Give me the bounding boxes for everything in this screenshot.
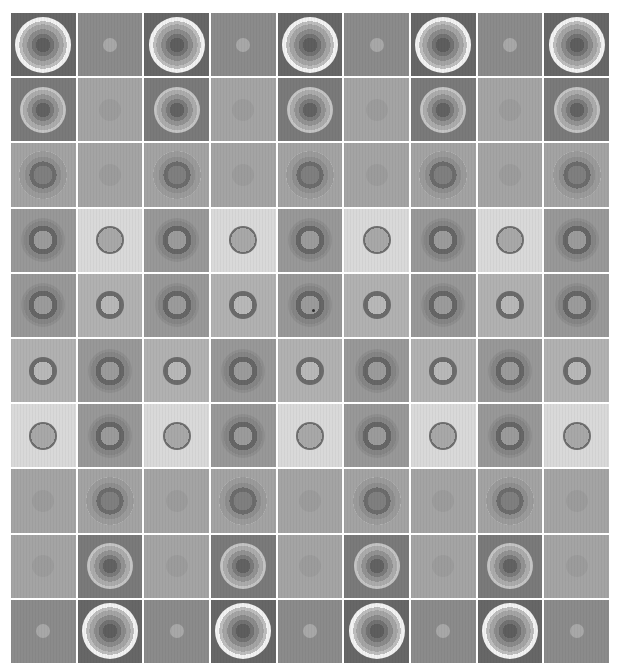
- grid-cell-soft-halo-ring: [344, 404, 409, 467]
- grid-cell-faint-striped-circle: [144, 469, 209, 532]
- grid-cell-soft-halo-ring: [478, 404, 543, 467]
- grid-cell-white-ring: [411, 78, 476, 141]
- concentric-circle-icon: [303, 624, 317, 638]
- concentric-circle-icon: [19, 151, 67, 199]
- concentric-circle-icon: [488, 414, 532, 458]
- concentric-circle-icon: [99, 99, 121, 121]
- grid-cell-white-ring: [278, 78, 343, 141]
- grid-cell-small-dot: [411, 600, 476, 663]
- concentric-circle-icon: [221, 349, 265, 393]
- concentric-circle-icon: [503, 38, 517, 52]
- concentric-circle-icon: [415, 17, 471, 73]
- concentric-circle-icon: [553, 151, 601, 199]
- grid-cell-faint-striped-circle: [344, 143, 409, 206]
- concentric-circle-icon: [103, 38, 117, 52]
- grid-cell-small-dot: [11, 600, 76, 663]
- concentric-circle-icon: [287, 87, 333, 133]
- grid-cell-light-bg-ring: [211, 209, 276, 272]
- grid-cell-soft-halo-ring: [544, 274, 609, 337]
- grid-cell-big-ring: [278, 13, 343, 76]
- grid-cell-soft-halo-ring: [411, 274, 476, 337]
- concentric-circle-icon: [429, 357, 457, 385]
- concentric-circle-icon: [566, 555, 588, 577]
- grid-cell-mid-bg-ring: [544, 339, 609, 402]
- grid-cell-small-dot: [544, 600, 609, 663]
- concentric-circle-icon: [482, 603, 538, 659]
- grid-cell-soft-halo-ring: [344, 339, 409, 402]
- concentric-circle-icon: [229, 291, 257, 319]
- concentric-circle-icon: [219, 477, 267, 525]
- concentric-circle-icon: [149, 17, 205, 73]
- grid-cell-white-ring: [544, 78, 609, 141]
- concentric-circle-icon: [96, 291, 124, 319]
- concentric-circle-icon: [419, 151, 467, 199]
- concentric-circle-icon: [170, 624, 184, 638]
- concentric-circle-icon: [166, 555, 188, 577]
- grid-cell-faint-striped-circle: [411, 535, 476, 598]
- concentric-circle-icon: [32, 490, 54, 512]
- concentric-circle-icon: [488, 349, 532, 393]
- concentric-circle-icon: [420, 87, 466, 133]
- grid-cell-big-ring: [544, 13, 609, 76]
- concentric-circle-icon: [29, 357, 57, 385]
- concentric-circle-icon: [296, 422, 324, 450]
- concentric-circle-icon: [166, 490, 188, 512]
- concentric-circle-icon: [296, 357, 324, 385]
- grid-cell-faint-striped-circle: [78, 78, 143, 141]
- grid-cell-small-dot: [278, 600, 343, 663]
- concentric-circle-icon: [21, 283, 65, 327]
- grid-cell-faint-halo-ring: [544, 143, 609, 206]
- grid-cell-faint-striped-circle: [478, 143, 543, 206]
- concentric-circle-icon: [299, 555, 321, 577]
- grid-cell-faint-halo-ring: [144, 143, 209, 206]
- grid-cell-faint-halo-ring: [11, 143, 76, 206]
- fixation-dot-icon: [312, 309, 315, 312]
- concentric-circle-icon: [370, 38, 384, 52]
- grid-cell-faint-striped-circle: [211, 143, 276, 206]
- grid-cell-soft-halo-ring: [411, 209, 476, 272]
- concentric-circle-icon: [155, 218, 199, 262]
- concentric-circle-icon: [236, 38, 250, 52]
- concentric-circle-icon: [88, 414, 132, 458]
- concentric-circle-icon: [363, 291, 391, 319]
- grid-cell-big-ring: [144, 13, 209, 76]
- grid-cell-light-bg-ring: [144, 404, 209, 467]
- grid-cell-faint-halo-ring: [411, 143, 476, 206]
- concentric-circle-icon: [96, 226, 124, 254]
- concentric-circle-icon: [566, 490, 588, 512]
- concentric-circle-icon: [487, 543, 533, 589]
- grid-cell-white-ring: [211, 535, 276, 598]
- concentric-circle-icon: [353, 477, 401, 525]
- concentric-circle-icon: [21, 218, 65, 262]
- grid-cell-light-bg-ring: [544, 404, 609, 467]
- concentric-circle-icon: [215, 603, 271, 659]
- grid-cell-faint-striped-circle: [278, 469, 343, 532]
- concentric-circle-icon: [363, 226, 391, 254]
- concentric-circle-icon: [496, 226, 524, 254]
- grid-cell-big-ring: [344, 600, 409, 663]
- grid-cell-light-bg-ring: [278, 404, 343, 467]
- grid-cell-faint-halo-ring: [344, 469, 409, 532]
- grid-cell-white-ring: [478, 535, 543, 598]
- grid-cell-mid-bg-ring: [78, 274, 143, 337]
- concentric-circle-icon: [366, 99, 388, 121]
- grid-cell-faint-striped-circle: [544, 469, 609, 532]
- stimulus-grid: [11, 13, 609, 663]
- concentric-circle-icon: [555, 218, 599, 262]
- grid-cell-soft-halo-ring: [278, 209, 343, 272]
- concentric-circle-icon: [496, 291, 524, 319]
- grid-cell-mid-bg-ring: [411, 339, 476, 402]
- grid-cell-mid-bg-ring: [478, 274, 543, 337]
- concentric-circle-icon: [88, 349, 132, 393]
- grid-cell-big-ring: [478, 600, 543, 663]
- grid-cell-light-bg-ring: [344, 209, 409, 272]
- grid-cell-faint-halo-ring: [78, 469, 143, 532]
- grid-cell-faint-striped-circle: [78, 143, 143, 206]
- grid-cell-mid-bg-ring: [144, 339, 209, 402]
- concentric-circle-icon: [499, 164, 521, 186]
- grid-cell-soft-halo-ring: [544, 209, 609, 272]
- concentric-circle-icon: [288, 218, 332, 262]
- grid-cell-white-ring: [78, 535, 143, 598]
- concentric-circle-icon: [282, 17, 338, 73]
- concentric-circle-icon: [563, 357, 591, 385]
